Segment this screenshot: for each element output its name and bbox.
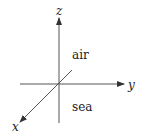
axes-diagram: z y x air sea	[0, 0, 144, 140]
y-axis-label: y	[127, 78, 135, 92]
x-axis-label: x	[12, 120, 19, 134]
sea-region-label: sea	[72, 100, 92, 114]
air-region-label: air	[72, 48, 89, 62]
x-axis-line	[20, 70, 72, 122]
z-axis-label: z	[55, 4, 63, 18]
